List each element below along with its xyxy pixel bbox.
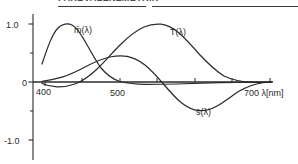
y-tick-label-0: 0 — [22, 78, 27, 88]
curve-label-s-bar: s̄(λ) — [196, 107, 211, 117]
x-tick-label-400: 400 — [36, 87, 51, 97]
y-tick-label-minus1: -1.0 — [4, 136, 20, 146]
x-axis-end-label: 700 λ[nm] — [244, 88, 284, 98]
x-tick-label-500: 500 — [110, 88, 125, 98]
y-tick-label-1: 1.0 — [6, 20, 19, 30]
curve-label-T-bar: T̄(λ) — [170, 27, 186, 37]
curve-label-m-bar: m̄(λ) — [74, 25, 92, 35]
plot-svg: 1.0 0 -1.0 400 500 700 λ[nm] m̄(λ) T̄(λ)… — [0, 0, 298, 164]
chart-figure: FARBVALENZMETRIK 1.0 0 -1.0 400 500 700 … — [0, 0, 298, 164]
